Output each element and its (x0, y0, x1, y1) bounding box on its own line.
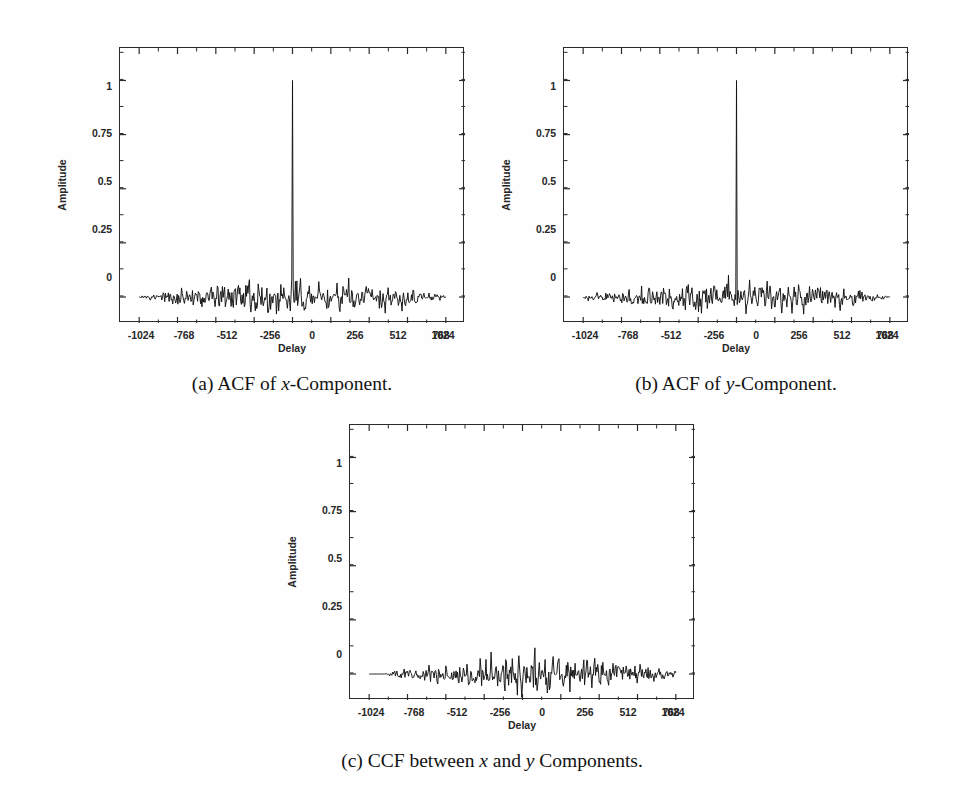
xtick-label-a-256: 256 (346, 329, 363, 341)
plot-canvas-c (350, 425, 695, 700)
caption-c-pre: CCF between (368, 750, 480, 771)
xtick-label-b--1024: -1024 (572, 329, 598, 341)
xtick-label-c--512: -512 (447, 706, 468, 718)
plot-canvas-b (564, 48, 909, 323)
xtick-label-c--1024: -1024 (358, 706, 384, 718)
caption-c-post: Components. (534, 750, 642, 771)
ytick-label-a-075: 0.75 (70, 127, 112, 139)
yaxis-title-c: Amplitude (286, 536, 298, 587)
subfigure-a: 1 0.75 0.5 0.25 0 -1024 -768 -512 -256 0… (0, 0, 520, 415)
xtick-label-b--256: -256 (704, 329, 725, 341)
xtick-label-a-512: 512 (389, 329, 406, 341)
ytick-label-c-075: 0.75 (300, 504, 342, 516)
plot-frame-b (563, 47, 908, 322)
xtick-label-c--256: -256 (490, 706, 511, 718)
xtick-label-c-0: 0 (539, 706, 545, 718)
ytick-label-a-1: 1 (70, 80, 112, 92)
xtick-label-a--768: -768 (174, 329, 195, 341)
xtick-label-a--1024: -1024 (128, 329, 154, 341)
ytick-label-a-05: 0.5 (70, 175, 112, 187)
caption-a-prefix: (a) (192, 373, 214, 394)
xtick-label-b-1024: 1024 (876, 329, 899, 341)
xtick-label-b-256: 256 (790, 329, 807, 341)
plot-canvas-a (120, 48, 465, 323)
ytick-label-b-05: 0.5 (514, 175, 556, 187)
xtick-label-a-0: 0 (309, 329, 315, 341)
caption-c-mid: and (488, 750, 526, 771)
xtick-label-a--512: -512 (217, 329, 238, 341)
figure-page: 1 0.75 0.5 0.25 0 -1024 -768 -512 -256 0… (0, 0, 961, 803)
ytick-label-b-075: 0.75 (514, 127, 556, 139)
caption-c-prefix: (c) (341, 750, 363, 771)
ytick-label-c-025: 0.25 (300, 600, 342, 612)
ytick-label-a-025: 0.25 (70, 223, 112, 235)
xtick-label-b--768: -768 (618, 329, 639, 341)
xtick-label-c-1024: 1024 (662, 706, 685, 718)
xtick-label-b-512: 512 (833, 329, 850, 341)
plot-frame-c (349, 424, 694, 699)
subfigure-c: 1 0.75 0.5 0.25 0 -1024 -768 -512 -256 0… (230, 377, 750, 792)
yaxis-title-b: Amplitude (500, 159, 512, 210)
ytick-label-b-0: 0 (514, 271, 556, 283)
ytick-label-c-0: 0 (300, 648, 342, 660)
xaxis-title-c: Delay (508, 719, 536, 731)
xtick-label-a--256: -256 (260, 329, 281, 341)
xtick-label-b-0: 0 (753, 329, 759, 341)
xtick-label-c-256: 256 (576, 706, 593, 718)
caption-c-var: x (479, 750, 488, 771)
ytick-label-b-025: 0.25 (514, 223, 556, 235)
xaxis-title-b: Delay (722, 342, 750, 354)
xaxis-title-a: Delay (278, 342, 306, 354)
subfigure-b: 1 0.75 0.5 0.25 0 -1024 -768 -512 -256 0… (444, 0, 961, 415)
ytick-label-c-1: 1 (300, 457, 342, 469)
ytick-label-b-1: 1 (514, 80, 556, 92)
xtick-label-c-512: 512 (619, 706, 636, 718)
xtick-label-c--768: -768 (404, 706, 425, 718)
yaxis-title-a: Amplitude (56, 159, 68, 210)
ytick-label-c-05: 0.5 (300, 552, 342, 564)
ytick-label-a-0: 0 (70, 271, 112, 283)
xtick-label-b--512: -512 (661, 329, 682, 341)
caption-c: (c) CCF between x and y Components. (341, 750, 643, 772)
plot-frame-a (119, 47, 464, 322)
